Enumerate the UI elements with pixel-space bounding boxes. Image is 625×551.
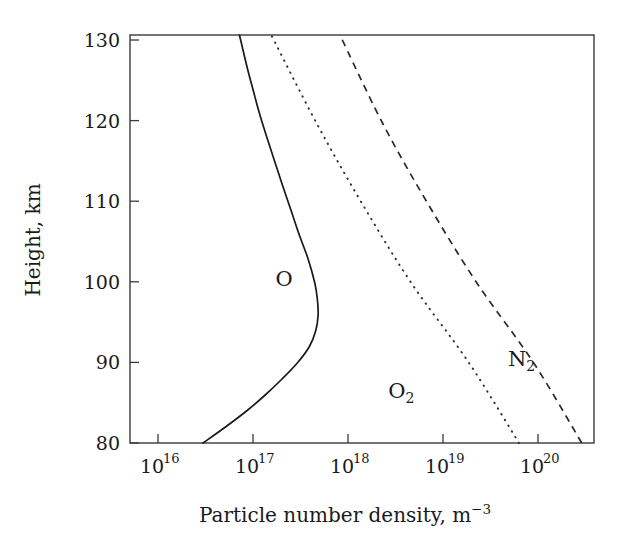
y-tick-label-80: 80 bbox=[96, 432, 120, 454]
x-tick-label-1e17: 10 17 bbox=[235, 451, 275, 477]
curve-n2 bbox=[340, 35, 582, 443]
x-tick-label-1e18: 10 18 bbox=[330, 451, 370, 477]
x-tick-label-1e16: 10 16 bbox=[140, 451, 180, 477]
y-tick-label-110: 110 bbox=[84, 190, 120, 212]
x-axis-title-main: Particle number density, m bbox=[199, 503, 471, 527]
svg-text:Particle number density, m−3: Particle number density, m−3 bbox=[199, 501, 491, 527]
series-label-n2-text: N2 bbox=[508, 347, 535, 374]
y-axis-ticks bbox=[130, 40, 139, 443]
plot-frame bbox=[130, 35, 594, 443]
x-tick-label-1e19: 10 19 bbox=[425, 451, 465, 477]
x-tick-base-1e16: 10 bbox=[140, 455, 164, 477]
y-tick-label-90: 90 bbox=[96, 351, 120, 373]
curve-o bbox=[203, 35, 318, 443]
x-axis-title-exponent: −3 bbox=[471, 501, 491, 517]
y-tick-label-130: 130 bbox=[84, 29, 120, 51]
x-tick-exp-1e17: 17 bbox=[258, 451, 275, 466]
series-label-o2-text: O2 bbox=[388, 379, 414, 406]
x-tick-base-1e18: 10 bbox=[330, 455, 354, 477]
y-tick-label-120: 120 bbox=[84, 110, 120, 132]
x-tick-label-1e20: 10 20 bbox=[520, 451, 560, 477]
x-tick-base-1e17: 10 bbox=[235, 455, 259, 477]
x-tick-exp-1e18: 18 bbox=[353, 451, 370, 466]
y-axis-title: Height, km bbox=[21, 183, 45, 296]
x-axis-title: Particle number density, m−3 bbox=[199, 501, 491, 527]
atmospheric-density-plot: 80 90 100 110 120 130 10 16 10 17 10 18 … bbox=[0, 0, 625, 551]
x-tick-base-1e20: 10 bbox=[520, 455, 544, 477]
series-label-o: O bbox=[275, 267, 292, 291]
x-tick-exp-1e16: 16 bbox=[163, 451, 180, 466]
x-tick-exp-1e20: 20 bbox=[543, 451, 560, 466]
series-label-o2: O2 bbox=[388, 379, 414, 406]
chart-figure: 80 90 100 110 120 130 10 16 10 17 10 18 … bbox=[0, 0, 625, 551]
series-label-n2: N2 bbox=[508, 347, 535, 374]
y-tick-label-100: 100 bbox=[84, 271, 120, 293]
x-tick-base-1e19: 10 bbox=[425, 455, 449, 477]
x-tick-exp-1e19: 19 bbox=[448, 451, 465, 466]
